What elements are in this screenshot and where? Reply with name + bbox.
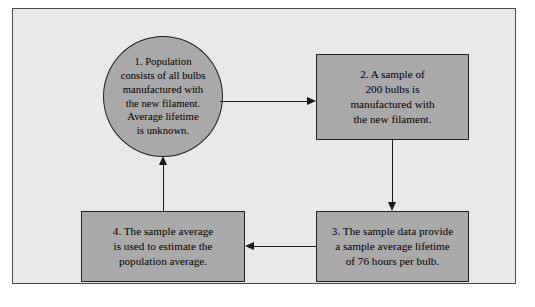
arrowhead-up-icon [159, 156, 167, 165]
arrow-shaft [163, 165, 164, 211]
diagram-node-sample: 2. A sample of 200 bulbs is manufactured… [316, 54, 469, 140]
diagram-node-population: 1. Population consists of all bulbs manu… [103, 36, 223, 157]
diagram-node-estimate: 4. The sample average is used to estimat… [81, 211, 245, 282]
diagram-node-sample-data: 3. The sample data provide a sample aver… [316, 211, 469, 282]
diagram-frame: 1. Population consists of all bulbs manu… [12, 8, 516, 284]
arrow-shaft [220, 101, 308, 102]
diagram-canvas: 1. Population consists of all bulbs manu… [0, 0, 535, 307]
diagram-node-sample-label: 2. A sample of 200 bulbs is manufactured… [344, 67, 440, 126]
arrowhead-right-icon [307, 97, 316, 105]
diagram-node-population-label: 1. Population consists of all bulbs manu… [112, 55, 215, 138]
arrowhead-left-icon [245, 242, 254, 250]
arrow-shaft [392, 140, 393, 203]
diagram-node-sample-data-label: 3. The sample data provide a sample aver… [326, 224, 459, 268]
diagram-node-estimate-label: 4. The sample average is used to estimat… [107, 224, 219, 268]
arrow-shaft [254, 246, 316, 247]
arrowhead-down-icon [388, 202, 396, 211]
